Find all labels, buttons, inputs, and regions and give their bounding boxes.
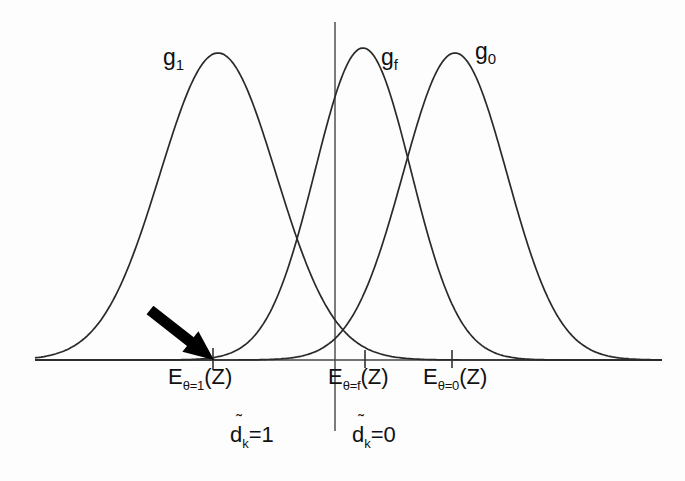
tick-label-theta-0-sub: θ=0 bbox=[438, 378, 459, 393]
curve-label-g1-base: g bbox=[163, 44, 176, 70]
curve-g1 bbox=[35, 53, 662, 360]
curve-label-gf-sub: f bbox=[394, 56, 398, 73]
figure-container: g1 gf g0 Eθ=1(Z) Eθ=f(Z) Eθ=0(Z) ̃dk=1 ̃… bbox=[0, 0, 685, 481]
tick-label-theta-f-base: E bbox=[328, 364, 343, 389]
curve-label-gf-base: g bbox=[381, 44, 394, 70]
curve-gf bbox=[35, 48, 662, 360]
tick-label-theta-0-tail: (Z) bbox=[459, 364, 487, 389]
region-label-decision-0-tail: =0 bbox=[371, 422, 396, 447]
region-label-decision-0-base: d bbox=[352, 422, 364, 447]
region-label-decision-1-symbol: ̃d bbox=[230, 424, 242, 446]
curve-label-g0: g0 bbox=[475, 40, 496, 63]
curve-label-g1-sub: 1 bbox=[176, 56, 184, 73]
curve-label-gf: gf bbox=[381, 46, 398, 69]
tick-label-theta-1: Eθ=1(Z) bbox=[168, 366, 232, 388]
tick-label-theta-f-tail: (Z) bbox=[361, 364, 389, 389]
curve-label-g0-base: g bbox=[475, 38, 488, 64]
tick-label-theta-1-base: E bbox=[168, 364, 183, 389]
region-label-decision-1: ̃dk=1 bbox=[230, 424, 274, 446]
tick-label-theta-0-base: E bbox=[423, 364, 438, 389]
region-label-decision-1-sub: k bbox=[242, 436, 249, 451]
region-label-decision-0-sub: k bbox=[364, 436, 371, 451]
curve-label-g1: g1 bbox=[163, 46, 184, 69]
tick-label-theta-1-tail: (Z) bbox=[204, 364, 232, 389]
region-label-decision-1-tail: =1 bbox=[249, 422, 274, 447]
tick-label-theta-1-sub: θ=1 bbox=[183, 378, 204, 393]
tick-label-theta-f-sub: θ=f bbox=[343, 378, 361, 393]
region-label-decision-0-symbol: ̃d bbox=[352, 424, 364, 446]
curve-g0 bbox=[35, 53, 662, 360]
threshold-arrow bbox=[147, 306, 214, 360]
curve-label-g0-sub: 0 bbox=[488, 50, 496, 67]
region-label-decision-1-base: d bbox=[230, 422, 242, 447]
tick-label-theta-0: Eθ=0(Z) bbox=[423, 366, 487, 388]
plot-svg bbox=[0, 0, 685, 481]
tick-label-theta-f: Eθ=f(Z) bbox=[328, 366, 389, 388]
region-label-decision-0: ̃dk=0 bbox=[352, 424, 396, 446]
